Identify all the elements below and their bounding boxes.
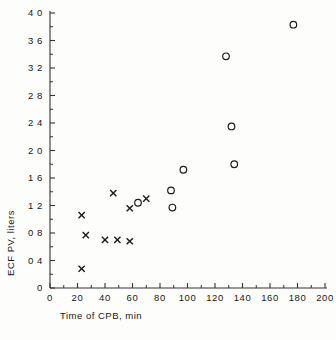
x-tick-label: 100 xyxy=(179,292,197,303)
data-point-cross xyxy=(127,238,133,244)
data-point-cross xyxy=(143,196,149,202)
data-point-circle xyxy=(180,166,187,173)
data-point-cross xyxy=(83,232,89,238)
data-point-circle xyxy=(135,199,142,206)
data-point-circle xyxy=(169,204,176,211)
data-point-cross xyxy=(127,205,133,211)
plot-canvas: 02040608010012014016018020000 40 81 21 6… xyxy=(0,0,336,340)
series-circle-series xyxy=(135,21,297,210)
y-tick-label: 2 8 xyxy=(28,90,43,101)
data-point-cross xyxy=(110,190,116,196)
y-axis-title: ECF PV, liters xyxy=(5,210,16,276)
data-point-circle xyxy=(168,187,175,194)
y-tick-label: 1 2 xyxy=(28,200,43,211)
data-point-cross xyxy=(79,212,85,218)
x-tick-label: 200 xyxy=(316,292,334,303)
y-tick-label: 4 0 xyxy=(28,7,43,18)
x-tick-label: 140 xyxy=(234,292,252,303)
y-tick-label: 0 xyxy=(37,282,43,293)
y-tick-label: 3 2 xyxy=(28,62,43,73)
x-tick-label: 40 xyxy=(99,292,111,303)
data-point-circle xyxy=(228,123,235,130)
data-point-circle xyxy=(290,21,297,28)
data-point-cross xyxy=(102,237,108,243)
x-tick-label: 120 xyxy=(206,292,224,303)
x-tick-label: 180 xyxy=(289,292,307,303)
x-tick-label: 160 xyxy=(261,292,279,303)
x-tick-label: 80 xyxy=(154,292,166,303)
data-point-cross xyxy=(114,237,120,243)
x-tick-label: 0 xyxy=(47,292,53,303)
y-tick-label: 1 6 xyxy=(28,172,43,183)
scatter-plot-figure: 02040608010012014016018020000 40 81 21 6… xyxy=(0,0,336,340)
x-tick-label: 20 xyxy=(72,292,84,303)
data-point-cross xyxy=(79,266,85,272)
y-tick-label: 3 6 xyxy=(28,35,43,46)
x-tick-label: 60 xyxy=(127,292,139,303)
y-tick-label: 2 4 xyxy=(28,117,43,128)
data-point-circle xyxy=(223,53,230,60)
data-point-circle xyxy=(231,161,238,168)
y-tick-label: 0 4 xyxy=(28,255,43,266)
y-tick-label: 0 8 xyxy=(28,227,43,238)
y-tick-label: 2 0 xyxy=(28,145,43,156)
series-cross-series xyxy=(79,190,150,272)
x-axis-title: Time of CPB, min xyxy=(60,310,142,321)
